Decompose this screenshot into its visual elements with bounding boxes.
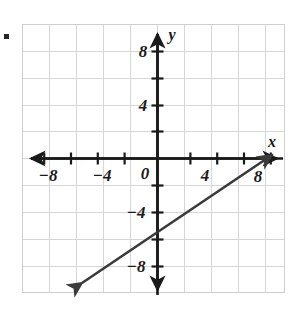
x-axis-name-label: x bbox=[268, 134, 276, 150]
y-tick-label-8: 8 bbox=[139, 43, 147, 60]
y-tick-label--8: −8 bbox=[127, 258, 145, 275]
x-tick-label--8: −8 bbox=[39, 167, 57, 184]
x-tick-label-4: 4 bbox=[201, 167, 209, 184]
x-tick-label-8: 8 bbox=[254, 168, 262, 185]
origin-label: 0 bbox=[141, 165, 149, 182]
x-tick-label--4: −4 bbox=[93, 167, 111, 184]
y-axis-name-label: y bbox=[168, 27, 175, 43]
y-tick-label-4: 4 bbox=[139, 97, 147, 114]
coordinate-plane-figure: −8 −4 0 4 8 8 4 −4 −8 x y bbox=[0, 0, 293, 309]
y-tick-label--4: −4 bbox=[127, 204, 145, 221]
